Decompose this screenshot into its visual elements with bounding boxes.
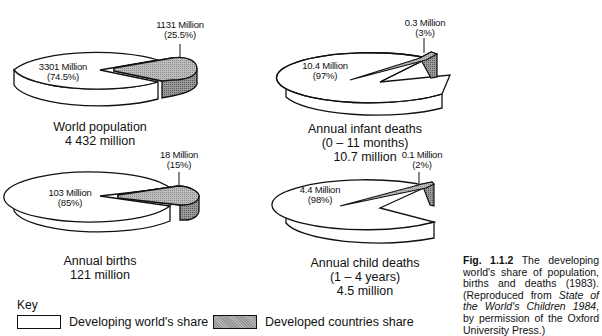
percent-label: (15%) <box>154 160 204 170</box>
chart-title: Annual child deaths <box>300 256 430 270</box>
chart-subtitle: (1 – 4 years) <box>300 270 430 284</box>
legend-label: Developing world's share <box>69 315 208 329</box>
percent-label: (97%) <box>292 71 358 81</box>
percent-label: (25.5%) <box>150 30 210 40</box>
slice-label-population-developing: 3301 Million (74.5%) <box>30 62 96 82</box>
legend-swatch-developed <box>213 315 257 329</box>
chart-title: World population <box>40 120 160 134</box>
chart-caption-child: Annual child deaths (1 – 4 years) 4.5 mi… <box>300 256 430 298</box>
chart-title: Annual births <box>40 254 160 268</box>
figure-number: Fig. 1.1.2 <box>463 254 513 266</box>
legend-item-developed: Developed countries share <box>213 315 414 329</box>
pie-annual-births <box>4 172 199 232</box>
figure-caption: Fig. 1.1.2 The developing world's share … <box>463 255 599 336</box>
legend-label: Developed countries share <box>265 315 414 329</box>
chart-caption-population: World population 4 432 million <box>40 120 160 148</box>
legend-item-developing: Developing world's share <box>17 315 208 329</box>
chart-total: 4.5 million <box>300 284 430 298</box>
slice-label-births-developed: 18 Million (15%) <box>154 150 204 170</box>
percent-label: (2%) <box>392 160 452 170</box>
slice-label-births-developing: 103 Million (85%) <box>40 188 100 208</box>
slice-label-infant-developing: 10.4 Million (97%) <box>292 61 358 81</box>
chart-title: Annual infant deaths <box>300 122 430 136</box>
legend-title: Key <box>17 298 38 312</box>
percent-label: (74.5%) <box>30 72 96 82</box>
slice-label-population-developed: 1131 Million (25.5%) <box>150 20 210 40</box>
percent-label: (3%) <box>395 28 455 38</box>
percent-label: (98%) <box>290 195 350 205</box>
slice-label-child-developed: 0.1 Million (2%) <box>392 150 452 170</box>
pie-child-deaths <box>272 172 434 243</box>
percent-label: (85%) <box>40 198 100 208</box>
chart-total: 4 432 million <box>40 134 160 148</box>
chart-subtitle: (0 – 11 months) <box>300 136 430 150</box>
legend-swatch-developing <box>17 315 61 329</box>
slice-label-child-developing: 4.4 Million (98%) <box>290 185 350 205</box>
chart-caption-births: Annual births 121 million <box>40 254 160 282</box>
chart-total: 121 million <box>40 268 160 282</box>
slice-label-infant-developed: 0.3 Million (3%) <box>395 18 455 38</box>
